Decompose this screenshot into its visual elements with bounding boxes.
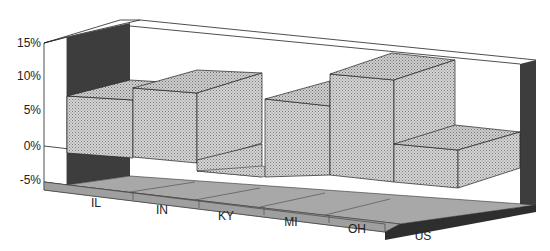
x-tick-label: US [415, 229, 432, 243]
y-axis: 15% 10% 5% 0% -5% [17, 36, 41, 187]
x-tick-label: IN [156, 203, 168, 217]
y-tick-label: -5% [20, 173, 42, 187]
y-tick-label: 10% [17, 69, 41, 83]
x-tick-label: KY [218, 209, 234, 223]
3d-bar-chart: 15% 10% 5% 0% -5% IL IN KY MI OH US [0, 0, 550, 251]
y-tick-label: 5% [24, 103, 42, 117]
x-tick-label: IL [91, 196, 101, 210]
x-tick-label: OH [348, 222, 366, 236]
y-tick-label: 15% [17, 36, 41, 50]
x-tick-label: MI [284, 215, 297, 229]
y-tick-label: 0% [24, 139, 42, 153]
